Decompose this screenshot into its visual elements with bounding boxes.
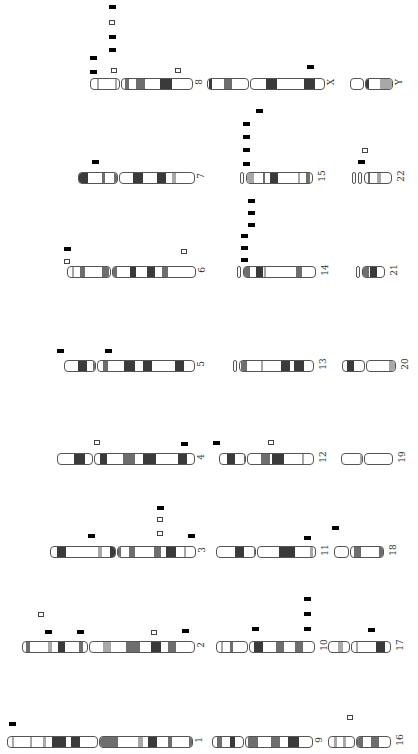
chromosome-18	[334, 546, 384, 558]
chromosome-arm	[342, 360, 365, 372]
band-mid	[103, 361, 108, 371]
band-light	[334, 737, 337, 747]
open-square-marker	[109, 20, 115, 25]
filled-bar-marker	[243, 122, 250, 126]
chromosome-label: 4	[196, 454, 206, 460]
chromosome-arm	[362, 266, 385, 278]
chromosome-arm	[240, 172, 244, 184]
chromosome-label: 21	[389, 264, 399, 275]
band-dark	[166, 547, 176, 557]
band-dark	[130, 267, 136, 277]
band-dark	[143, 454, 156, 464]
chromosome-label: 3	[197, 547, 207, 553]
band-mid	[295, 642, 303, 652]
chromosome-arm	[216, 641, 248, 653]
band-mid	[356, 737, 363, 747]
band-light	[310, 547, 313, 557]
filled-bar-marker	[256, 109, 263, 113]
filled-bar-marker	[9, 722, 16, 726]
chromosome-arm	[112, 266, 196, 278]
band-dark	[230, 737, 235, 747]
filled-bar-marker	[188, 534, 195, 538]
chromosome-Y	[350, 78, 393, 90]
band-dark	[78, 361, 87, 371]
band-mid	[276, 642, 284, 652]
chromosome-arm	[364, 453, 393, 465]
chromosome-15	[240, 172, 313, 184]
filled-bar-marker	[105, 349, 112, 353]
chromosome-label: 13	[318, 358, 328, 369]
band-mid	[244, 454, 246, 464]
chromosome-arm	[366, 360, 396, 372]
band-light	[97, 79, 99, 89]
chromosome-4	[57, 453, 195, 465]
band-light	[98, 547, 102, 557]
band-light	[264, 267, 266, 277]
band-light	[48, 642, 52, 652]
filled-bar-marker	[45, 630, 52, 634]
band-light	[302, 454, 304, 464]
band-dark	[178, 454, 187, 464]
band-mid	[244, 267, 250, 277]
chromosome-label: 16	[395, 734, 405, 745]
band-light	[298, 173, 300, 183]
band-mid	[224, 79, 232, 89]
chromosome-label: 1	[194, 737, 204, 743]
chromosome-arm	[64, 360, 96, 372]
chromosome-8	[90, 78, 193, 90]
chromosome-arm	[67, 266, 111, 278]
chromosome-label: 9	[314, 737, 324, 743]
band-dark	[256, 267, 263, 277]
band-dark	[281, 361, 290, 371]
chromosome-label: 6	[197, 267, 207, 273]
band-mid	[261, 454, 270, 464]
band-light	[338, 642, 343, 652]
filled-bar-marker	[241, 234, 248, 238]
chromosome-label: 12	[318, 451, 328, 462]
open-square-marker	[157, 531, 163, 536]
band-mid	[189, 737, 192, 747]
chromosome-arm	[350, 546, 384, 558]
band-light	[72, 267, 74, 277]
filled-bar-marker	[304, 627, 311, 631]
band-light	[103, 642, 111, 652]
karyogram: 8XY7152261421513204121931118210171916	[0, 0, 418, 754]
filled-bar-marker	[57, 349, 64, 353]
chromosome-21	[356, 266, 385, 278]
band-mid	[102, 173, 105, 183]
chromosome-17	[328, 641, 391, 653]
chromosome-arm	[99, 736, 193, 748]
band-dark	[71, 737, 80, 747]
band-mid	[217, 737, 222, 747]
open-square-marker	[181, 249, 187, 254]
band-dark	[148, 737, 157, 747]
band-mid	[123, 454, 135, 464]
band-mid	[230, 642, 233, 652]
band-mid	[271, 737, 280, 747]
chromosome-arm	[7, 736, 98, 748]
filled-bar-marker	[182, 629, 189, 633]
filled-bar-marker	[181, 442, 188, 446]
chromosome-label: 22	[396, 170, 406, 181]
chromosome-1	[7, 736, 193, 748]
band-mid	[112, 267, 117, 277]
band-dark	[304, 79, 315, 89]
band-dark	[235, 547, 244, 557]
band-light	[138, 737, 143, 747]
chromosome-label: 20	[400, 358, 410, 369]
chromosome-arm	[119, 172, 195, 184]
chromosome-16	[328, 736, 391, 748]
band-light	[356, 642, 358, 652]
filled-bar-marker	[332, 526, 339, 530]
band-light	[380, 79, 393, 89]
band-light	[172, 173, 176, 183]
chromosome-label: Y	[394, 79, 404, 85]
band-dark	[124, 361, 135, 371]
band-dark	[160, 79, 172, 89]
band-mid	[354, 547, 361, 557]
chromosome-arm	[89, 641, 195, 653]
band-dark	[347, 361, 354, 371]
filled-bar-marker	[248, 223, 255, 227]
band-mid	[136, 79, 145, 89]
band-dark	[110, 547, 115, 557]
